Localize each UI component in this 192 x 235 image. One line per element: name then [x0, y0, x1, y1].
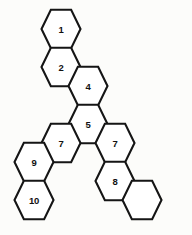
hexagon-cell-label: 9: [31, 157, 36, 168]
hexagon-cell-group: [15, 10, 162, 219]
hexagon-cell: [123, 181, 162, 219]
hexagon-cell-label: 8: [112, 176, 117, 187]
hexagon-diagram-canvas: 1245779108: [0, 0, 192, 235]
hexagon-cell-label: 7: [58, 138, 63, 149]
hexagon-cell-label: 10: [29, 195, 39, 206]
hexagon-diagram: 1245779108: [0, 0, 192, 235]
hexagon-cell-label: 2: [58, 62, 63, 73]
hexagon-cell-label: 7: [112, 138, 117, 149]
